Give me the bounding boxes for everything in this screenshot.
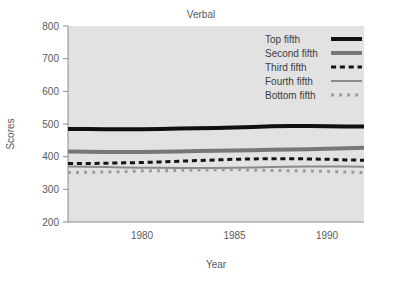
x-tick-label: 1985	[223, 230, 246, 241]
x-axis-title: Year	[206, 259, 227, 270]
y-axis-title: Scores	[5, 118, 16, 149]
x-tick-label: 1990	[316, 230, 339, 241]
legend-label-third-fifth: Third fifth	[265, 62, 307, 73]
y-tick-label: 700	[42, 53, 59, 64]
y-tick-label: 300	[42, 184, 59, 195]
x-tick-label: 1980	[131, 230, 154, 241]
y-tick-label: 500	[42, 119, 59, 130]
y-tick-label: 600	[42, 86, 59, 97]
y-tick-label: 200	[42, 217, 59, 228]
plot-area-background	[68, 26, 364, 222]
chart-canvas: Verbal 200300400500600700800 19801985199…	[0, 0, 402, 283]
legend-label-second-fifth: Second fifth	[265, 48, 318, 59]
y-tick-label: 800	[42, 21, 59, 32]
legend-label-fourth-fifth: Fourth fifth	[265, 76, 313, 87]
legend-label-top-fifth: Top fifth	[265, 34, 300, 45]
verbal-scores-chart: Verbal 200300400500600700800 19801985199…	[0, 0, 402, 283]
y-tick-label: 400	[42, 151, 59, 162]
legend-label-bottom-fifth: Bottom fifth	[265, 90, 316, 101]
chart-title: Verbal	[187, 9, 215, 20]
